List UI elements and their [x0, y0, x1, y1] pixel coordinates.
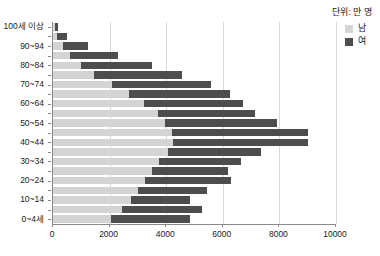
x-tick-mark — [335, 224, 336, 227]
bar-segment-male — [53, 62, 81, 69]
bar-row — [53, 90, 336, 97]
bar-segment-female — [122, 206, 201, 213]
bar-segment-female — [159, 158, 241, 165]
x-tick-label: 2000 — [99, 230, 118, 239]
bar-row — [53, 187, 336, 194]
bar-segment-male — [53, 71, 94, 78]
bar-row — [53, 62, 336, 69]
bar-segment-male — [53, 196, 131, 203]
bar-segment-female — [70, 52, 118, 59]
x-tick-label: 10000 — [323, 230, 347, 239]
chart-legend: 남여 — [345, 24, 366, 46]
x-tick-label: 4000 — [156, 230, 175, 239]
bar-segment-male — [53, 187, 138, 194]
y-tick-mark — [48, 65, 51, 66]
bar-segment-female — [168, 148, 261, 155]
bar-segment-female — [165, 119, 277, 126]
bar-segment-male — [53, 100, 144, 107]
y-tick-mark — [48, 46, 51, 47]
bar-row — [53, 148, 336, 155]
bar-segment-male — [53, 139, 173, 146]
bar-row — [53, 71, 336, 78]
bar-segment-male — [53, 129, 172, 136]
y-tick-mark — [48, 94, 51, 95]
bar-segment-male — [53, 177, 145, 184]
y-tick-mark — [48, 75, 51, 76]
x-tick-mark — [109, 224, 110, 227]
bar-segment-female — [94, 71, 182, 78]
bar-segment-female — [173, 139, 307, 146]
gridline — [336, 22, 337, 224]
bar-segment-female — [57, 33, 67, 40]
y-tick-mark — [48, 27, 51, 28]
y-tick-mark — [48, 113, 51, 114]
bar-segment-female — [81, 62, 152, 69]
bar-row — [53, 33, 336, 40]
x-tick-mark — [52, 224, 53, 227]
legend-label: 여 — [358, 37, 366, 46]
y-tick-mark — [48, 36, 51, 37]
y-tick-mark — [48, 181, 51, 182]
x-tick-mark — [222, 224, 223, 227]
legend-item-2[interactable]: 여 — [345, 37, 366, 46]
bar-segment-male — [53, 52, 70, 59]
bar-segment-male — [53, 206, 122, 213]
bar-row — [53, 158, 336, 165]
bar-rows — [53, 22, 336, 224]
y-tick-mark — [48, 123, 51, 124]
y-tick-label: 60~64 — [20, 99, 44, 108]
y-tick-label: 100세 이상 — [3, 22, 44, 31]
legend-swatch-icon — [345, 38, 353, 46]
bar-segment-male — [53, 215, 111, 222]
bar-segment-female — [152, 167, 228, 174]
bar-segment-male — [53, 81, 112, 88]
y-tick-mark — [48, 190, 51, 191]
bar-row — [53, 206, 336, 213]
bar-row — [53, 23, 336, 30]
y-tick-mark — [48, 219, 51, 220]
y-tick-mark — [48, 152, 51, 153]
bar-segment-female — [129, 90, 229, 97]
bar-row — [53, 177, 336, 184]
bar-segment-female — [145, 177, 231, 184]
bar-segment-male — [53, 42, 63, 49]
population-pyramid-chart: 단위: 만 명 남여 100세 이상90~9480~8470~7460~6450… — [0, 0, 380, 256]
bar-segment-female — [172, 129, 308, 136]
bar-segment-female — [144, 100, 243, 107]
y-tick-label: 0~4세 — [22, 215, 44, 224]
y-tick-label: 20~24 — [20, 176, 44, 185]
bar-segment-male — [53, 119, 165, 126]
x-tick-label: 6000 — [212, 230, 231, 239]
bar-segment-male — [53, 110, 158, 117]
bar-row — [53, 100, 336, 107]
y-tick-label: 80~84 — [20, 61, 44, 70]
bar-row — [53, 42, 336, 49]
x-tick-label: 0 — [50, 230, 55, 239]
y-tick-label: 90~94 — [20, 42, 44, 51]
y-tick-mark — [48, 133, 51, 134]
plot-area — [52, 22, 336, 225]
bar-row — [53, 119, 336, 126]
bar-row — [53, 215, 336, 222]
bar-row — [53, 139, 336, 146]
bar-segment-female — [138, 187, 207, 194]
bar-row — [53, 52, 336, 59]
y-tick-mark — [48, 200, 51, 201]
legend-item-1[interactable]: 남 — [345, 24, 366, 33]
bar-segment-male — [53, 90, 129, 97]
y-tick-mark — [48, 171, 51, 172]
bar-segment-female — [63, 42, 88, 49]
y-tick-mark — [48, 104, 51, 105]
y-tick-mark — [48, 161, 51, 162]
bar-row — [53, 167, 336, 174]
y-tick-label: 40~44 — [20, 138, 44, 147]
x-tick-label: 8000 — [269, 230, 288, 239]
y-tick-label: 10~14 — [20, 195, 44, 204]
y-tick-label: 50~54 — [20, 119, 44, 128]
unit-caption: 단위: 만 명 — [332, 5, 372, 18]
y-axis: 100세 이상90~9480~8470~7460~6450~5440~4430~… — [0, 22, 48, 224]
legend-swatch-icon — [345, 25, 353, 33]
bar-segment-female — [158, 110, 256, 117]
bar-row — [53, 81, 336, 88]
y-tick-mark — [48, 210, 51, 211]
